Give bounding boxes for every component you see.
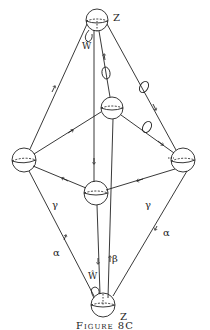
arrow-upper-middle-right (158, 141, 163, 145)
arrow-upper-middle-top (104, 54, 105, 60)
edge-lower-middle-to-left (33, 166, 86, 188)
edge-upper-middle-to-right (121, 115, 174, 153)
sphere-node-top (85, 9, 108, 42)
sphere-node-lower-middle (84, 181, 108, 205)
label-w-hat-bottom: Ŵ (88, 272, 97, 281)
sphere-node-left (12, 148, 36, 172)
label-beta: β (112, 254, 118, 264)
arrow-lower-middle-left (62, 178, 68, 181)
edge-left-to-top (30, 24, 87, 149)
label-gamma-left: γ (52, 200, 58, 210)
arrow-left-top (52, 86, 55, 92)
twist-icon-upper-middle-right (141, 120, 154, 134)
sphere-node-bottom (91, 287, 115, 317)
label-w-hat-top: Ŵ (82, 42, 91, 51)
arrow-bottom-left (64, 235, 66, 240)
label-alpha-left: α (53, 248, 60, 258)
edge-lower-middle-to-bottom (97, 205, 100, 294)
knot-diagram (0, 0, 210, 330)
sphere-node-upper-middle (101, 97, 123, 119)
edge-upper-middle-to-top (99, 31, 110, 97)
edge-top-to-right (107, 24, 176, 150)
figure-caption: Figure 8C (0, 320, 210, 330)
label-z-top: Z (113, 13, 120, 23)
edge-upper-middle-to-bottom (108, 119, 113, 298)
label-alpha-right: α (163, 228, 170, 238)
twist-icon-top-right (138, 80, 151, 94)
arrow-right-bottom (155, 226, 157, 230)
label-gamma-right: γ (145, 200, 151, 210)
edge-right-to-bottom (113, 171, 187, 296)
arrow-left-upper-middle (68, 130, 73, 133)
